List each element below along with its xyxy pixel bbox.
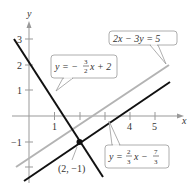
svg-text:y = −: y = − — [54, 61, 78, 72]
y-tick-neg1: −1 — [11, 137, 22, 148]
y-axis-label: y — [26, 8, 32, 19]
y-tick-1: 1 — [17, 85, 22, 96]
eq2-text: 2x − 3y = 5 — [113, 33, 160, 44]
callout-eq2: 2x − 3y = 5 — [109, 31, 177, 64]
graph: x y 1 4 5 3 2 1 −1 (2, −1) y = − 3 2 x +… — [0, 0, 190, 191]
x-tick-5: 5 — [152, 121, 157, 132]
y-tick-2: 2 — [17, 60, 22, 71]
eq3-num1: 2 — [127, 148, 131, 156]
eq1-denominator: 2 — [84, 67, 88, 75]
eq1-right: x + 2 — [89, 61, 111, 72]
x-tick-1: 1 — [52, 121, 57, 132]
eq3-den2: 3 — [154, 158, 158, 166]
intersection-point — [77, 139, 83, 145]
y-axis-arrow-icon — [27, 21, 32, 28]
eq3-num2: 7 — [154, 148, 158, 156]
eq1-left: y = − — [54, 61, 78, 72]
eq1-numerator: 3 — [84, 58, 88, 66]
callout-eq1: y = − 3 2 x + 2 — [51, 55, 117, 91]
x-tick-4: 4 — [127, 121, 132, 132]
x-axis-label: x — [181, 115, 187, 126]
eq3-den1: 3 — [127, 158, 131, 166]
intersection-label: (2, −1) — [58, 163, 85, 175]
eq3-left: y = — [108, 151, 123, 162]
eq3-mid: x − — [133, 151, 148, 162]
callout-eq3: y = 2 3 x − 7 3 — [105, 121, 169, 168]
